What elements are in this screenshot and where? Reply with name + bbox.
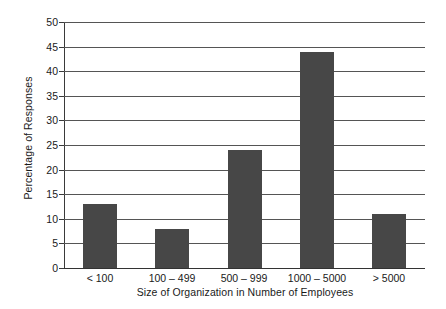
gridline — [64, 268, 425, 269]
y-axis-tick-label: 15 — [24, 189, 58, 199]
x-axis-tick-label: > 5000 — [353, 272, 425, 284]
bar — [300, 52, 334, 268]
x-axis-tick-label: < 100 — [64, 272, 136, 284]
bar — [228, 150, 262, 268]
y-axis-tick-label: 5 — [24, 238, 58, 248]
y-axis-tick-mark — [59, 96, 64, 97]
y-axis-tick-mark — [59, 219, 64, 220]
x-axis-tick-label: 1000 – 5000 — [281, 272, 353, 284]
y-axis-tick-label: 50 — [24, 17, 58, 27]
bar — [372, 214, 406, 268]
x-axis-tick-labels: < 100100 – 499500 – 9991000 – 5000> 5000 — [64, 272, 425, 286]
y-axis-tick-mark — [59, 145, 64, 146]
y-axis-tick-mark — [59, 71, 64, 72]
y-axis-tick-label: 35 — [24, 91, 58, 101]
y-axis-tick-labels: 05101520253035404550 — [22, 22, 58, 268]
y-axis-tick-mark — [59, 22, 64, 23]
y-axis-tick-label: 30 — [24, 115, 58, 125]
y-axis-tick-label: 10 — [24, 214, 58, 224]
x-axis-title: Size of Organization in Number of Employ… — [64, 286, 426, 298]
y-axis-tick-label: 40 — [24, 66, 58, 76]
x-axis-tick-label: 100 – 499 — [136, 272, 208, 284]
bars-layer — [64, 22, 425, 268]
y-axis-tick-mark — [59, 47, 64, 48]
y-axis-tick-mark — [59, 170, 64, 171]
y-axis-tick-label: 45 — [24, 42, 58, 52]
x-axis-tick-label: 500 – 999 — [208, 272, 280, 284]
y-axis-tick-label: 20 — [24, 165, 58, 175]
y-axis-tick-label: 0 — [24, 263, 58, 273]
bar — [155, 229, 189, 268]
y-axis-tick-mark — [59, 243, 64, 244]
y-axis-tick-mark — [59, 268, 64, 269]
y-axis-tick-mark — [59, 120, 64, 121]
bar — [83, 204, 117, 268]
bar-chart: Percentage of Responses 0510152025303540… — [0, 0, 446, 309]
y-axis-tick-mark — [59, 194, 64, 195]
y-axis-tick-label: 25 — [24, 140, 58, 150]
